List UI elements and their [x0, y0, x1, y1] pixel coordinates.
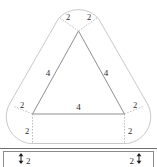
label-triangle-side-left: 4 — [46, 68, 51, 78]
left-dimension-arrow-icon — [19, 153, 24, 164]
label-triangle-side-right: 4 — [104, 68, 109, 78]
label-radius-bottom-right-vertical: 2 — [128, 126, 132, 136]
bottom-dimension-bar: 2 2 — [0, 147, 157, 167]
triangle-side-right — [79, 31, 125, 114]
right-dimension-arrow-icon — [137, 153, 142, 164]
label-radius-apex-right: 2 — [87, 12, 91, 22]
triangle-side-left — [33, 31, 79, 114]
geometry-figure: 4 4 4 2 2 2 2 2 2 — [0, 0, 157, 147]
label-radius-apex-left: 2 — [66, 12, 70, 22]
label-radius-bottom-left-diagonal: 2 — [20, 100, 24, 110]
label-radius-bottom-left-vertical: 2 — [25, 126, 29, 136]
diagram-canvas: 4 4 4 2 2 2 2 2 2 2 2 — [0, 0, 157, 167]
rounded-triangle-outline — [6, 10, 150, 144]
label-bottom-bar-left: 2 — [26, 156, 31, 166]
label-triangle-side-bottom: 4 — [76, 102, 81, 112]
label-radius-bottom-right-diagonal: 2 — [133, 100, 137, 110]
label-bottom-bar-right: 2 — [130, 156, 135, 166]
